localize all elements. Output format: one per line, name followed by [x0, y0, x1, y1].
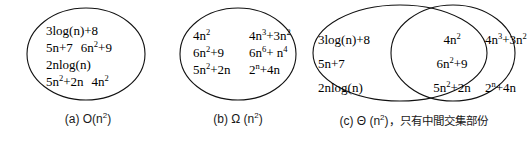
asymptotic-notation-figure: 3log(n)+8 5n+76n2+9 2nlog(n) 5n2+2n4n2 (… [0, 0, 527, 141]
term-item: 6n2+9 [81, 40, 112, 55]
term-item: 5n2+2n [433, 80, 471, 95]
caption-notation: Θ (n2) [357, 114, 389, 128]
term-row: 4n3+3n2 [485, 28, 527, 52]
exponent: 4 [283, 44, 287, 54]
term-item: 5n2+2n [46, 74, 84, 89]
term-item: 2nlog(n) [318, 80, 363, 95]
caption-label: (b) [213, 112, 228, 126]
term-item: 2n+4n [485, 80, 516, 95]
term-item: 6n2+9 [193, 44, 249, 61]
term-list-big-o: 3log(n)+8 5n+76n2+9 2nlog(n) 5n2+2n4n2 [46, 22, 112, 90]
term-list-left-only: 3log(n)+8 5n+7 2nlog(n) [318, 28, 370, 100]
term-item: 4n3+3n2 [249, 28, 291, 43]
term-item: 3log(n)+8 [46, 23, 98, 38]
term-item: 4n2 [193, 27, 249, 44]
term-row: 5n+76n2+9 [46, 39, 112, 56]
term-row [485, 52, 527, 76]
caption-label: (a) [65, 112, 80, 126]
term-item: 6n6+ n4 [249, 45, 288, 60]
term-row: 5n2+2n2n+4n [193, 61, 291, 78]
exponent: 2 [456, 31, 460, 41]
term-item: 6n2+9 [436, 56, 467, 71]
term-row: 4n24n3+3n2 [193, 27, 291, 44]
term-item: 4n3+3n2 [485, 32, 527, 47]
term-item: 3log(n)+8 [318, 32, 370, 47]
term-row: 2nlog(n) [318, 76, 370, 100]
term-item: 5n2+2n [193, 61, 249, 78]
caption-notation: O(n2) [83, 112, 111, 126]
term-row: 6n2+96n6+ n4 [193, 44, 291, 61]
exponent: 2 [206, 27, 210, 37]
term-list-right-only: 4n3+3n2 2n+4n [485, 28, 527, 100]
panel-big-theta: 3log(n)+8 5n+7 2nlog(n) 4n2 6n2+9 5n2+2n… [300, 0, 527, 141]
term-row: 2nlog(n) [46, 56, 112, 73]
caption-label: (c) [339, 114, 353, 128]
term-row: 3log(n)+8 [318, 28, 370, 52]
caption-c: (c) Θ (n2)，只有中間交集部份 [300, 112, 527, 128]
term-list-intersection: 4n2 6n2+9 5n2+2n [420, 28, 484, 100]
caption-note: ，只有中間交集部份 [389, 114, 488, 128]
term-item: 2nlog(n) [46, 57, 91, 72]
term-item: 4n2 [92, 74, 109, 89]
panel-big-o: 3log(n)+8 5n+76n2+9 2nlog(n) 5n2+2n4n2 (… [0, 0, 176, 141]
term-item: 4n2 [443, 32, 460, 47]
exponent: 2 [523, 31, 527, 41]
term-row: 4n2 [420, 28, 484, 52]
term-item: 5n+7 [318, 56, 345, 71]
exponent: 2 [105, 73, 109, 83]
caption-notation: Ω (n2) [231, 112, 262, 126]
term-row: 6n2+9 [420, 52, 484, 76]
term-row: 5n+7 [318, 52, 370, 76]
term-row: 5n2+2n [420, 76, 484, 100]
caption-a: (a) O(n2) [0, 112, 176, 126]
term-row: 3log(n)+8 [46, 22, 112, 39]
term-item: 2n+4n [249, 62, 280, 77]
term-row: 5n2+2n4n2 [46, 73, 112, 90]
term-list-big-omega: 4n24n3+3n2 6n2+96n6+ n4 5n2+2n2n+4n [193, 27, 291, 78]
term-row: 2n+4n [485, 76, 527, 100]
caption-b: (b) Ω (n2) [176, 112, 300, 126]
exponent: 2 [287, 27, 291, 37]
term-item: 5n+7 [46, 40, 73, 55]
panel-big-omega: 4n24n3+3n2 6n2+96n6+ n4 5n2+2n2n+4n (b) … [176, 0, 300, 141]
